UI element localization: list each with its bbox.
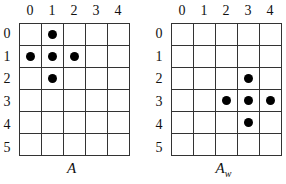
grid-cell [238,46,260,68]
grid-cell [260,112,282,134]
grid-cell [172,68,194,90]
grid-cell [20,134,42,156]
grid-cell [64,68,86,90]
grid-cell [64,112,86,134]
row-label: 3 [152,91,166,113]
grid-cell [42,46,64,68]
grid-cell [108,112,130,134]
grid-cell [216,90,238,112]
grid-cell [42,134,64,156]
dot-marker [266,96,275,105]
grid-cell [238,90,260,112]
column-label: 1 [193,3,215,19]
grid-cell [172,90,194,112]
grid-panel-a: 01234012345A [0,0,143,184]
grid-cell [20,68,42,90]
grid-cell [42,90,64,112]
row-label: 4 [152,114,166,136]
grid-cell [260,68,282,90]
grid-cell [86,24,108,46]
caption-subscript: w [225,168,232,179]
grid [171,23,282,156]
grid-cell [172,46,194,68]
grid-cell [64,134,86,156]
grid-cell [108,68,130,90]
column-label: 2 [63,3,85,19]
column-label: 4 [259,3,281,19]
row-label: 1 [152,46,166,68]
grid-cell [108,134,130,156]
grid-caption: Aw [152,160,286,179]
row-label: 2 [0,68,14,90]
grid-cell [238,134,260,156]
dot-marker [26,52,35,61]
grid-cell [108,24,130,46]
dot-marker [70,52,79,61]
grid-cell [20,24,42,46]
row-label: 1 [0,46,14,68]
grid-cell [216,134,238,156]
dot-marker [48,30,57,39]
grid-cell [20,112,42,134]
grid-cell [172,134,194,156]
grid-cell [172,112,194,134]
column-label: 2 [215,3,237,19]
dot-marker [222,96,231,105]
caption-text: A [67,160,76,176]
column-label: 3 [85,3,107,19]
grid-cell [216,24,238,46]
column-label: 0 [19,3,41,19]
row-label: 3 [0,91,14,113]
grid-cell [194,46,216,68]
grid-cell [216,46,238,68]
grid-cell [42,112,64,134]
grid-cell [194,90,216,112]
column-label: 3 [237,3,259,19]
grid-cell [86,46,108,68]
row-label: 5 [0,137,14,159]
grid-caption: A [0,160,143,179]
grid-cell [216,112,238,134]
grid-cell [238,68,260,90]
grid-cell [64,46,86,68]
grid-cell [86,112,108,134]
grid-cell [86,134,108,156]
grid-cell [42,68,64,90]
dot-marker [244,118,253,127]
grid-cell [238,24,260,46]
column-label: 1 [41,3,63,19]
row-label: 2 [152,68,166,90]
grid-cell [194,134,216,156]
grid-cell [238,112,260,134]
grid-cell [108,90,130,112]
grid-cell [194,68,216,90]
grid-cell [260,90,282,112]
grid-cell [172,24,194,46]
grid [19,23,130,156]
grid-cell [260,134,282,156]
row-label: 5 [152,137,166,159]
dot-marker [48,74,57,83]
grid-cell [42,24,64,46]
column-label: 0 [171,3,193,19]
grid-cell [194,24,216,46]
grid-cell [64,24,86,46]
row-label: 0 [152,23,166,45]
grid-cell [20,46,42,68]
grid-cell [86,90,108,112]
grid-cell [20,90,42,112]
row-label: 4 [0,114,14,136]
column-label: 4 [107,3,129,19]
grid-cell [86,68,108,90]
row-label: 0 [0,23,14,45]
dot-marker [48,52,57,61]
grid-cell [108,46,130,68]
grid-cell [216,68,238,90]
grid-cell [260,24,282,46]
grid-cell [64,90,86,112]
grid-panel-aw: 01234012345Aw [152,0,286,184]
caption-text: A [216,160,225,176]
grid-cell [260,46,282,68]
dot-marker [244,96,253,105]
dot-marker [244,74,253,83]
